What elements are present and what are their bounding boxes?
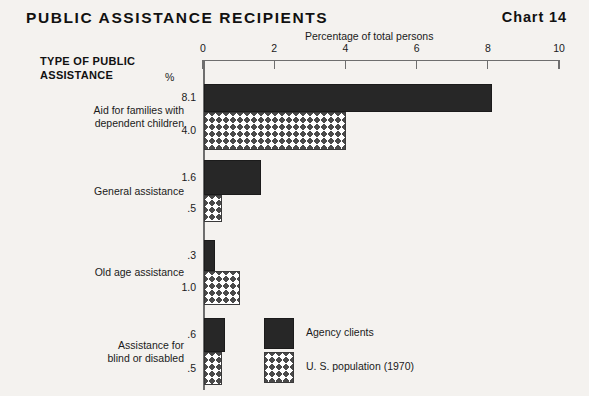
value-label-population-0: 4.0 xyxy=(162,124,196,136)
bar-population-1 xyxy=(204,195,222,222)
value-label-population-3: .5 xyxy=(162,362,196,374)
x-tick-label-10: 10 xyxy=(553,42,565,54)
category-label-1: General assistance xyxy=(24,185,184,198)
value-label-agency-0: 8.1 xyxy=(162,91,196,103)
chart-container: PUBLIC ASSISTANCE RECIPIENTS Chart 14 Pe… xyxy=(0,0,589,396)
x-tick-label-8: 8 xyxy=(485,42,491,54)
category-label-2-line0: Old age assistance xyxy=(24,266,184,279)
value-label-agency-3: .6 xyxy=(162,328,196,340)
category-label-3-line0: Assistance for xyxy=(24,339,184,352)
x-tick-8 xyxy=(487,60,488,69)
plot-area: 0246810 8.14.01.6.5.31.0.6.5 xyxy=(203,60,559,390)
x-tick-label-4: 4 xyxy=(342,42,348,54)
category-label-0-line0: Aid for families with xyxy=(24,104,184,117)
legend-label-0: Agency clients xyxy=(306,326,374,338)
value-label-population-1: .5 xyxy=(162,202,196,214)
legend-label-1: U. S. population (1970) xyxy=(306,360,414,372)
category-label-1-line0: General assistance xyxy=(24,185,184,198)
x-axis-line xyxy=(203,60,559,61)
category-label-2: Old age assistance xyxy=(24,266,184,279)
category-label-0: Aid for families withdependent children xyxy=(24,104,184,130)
x-tick-0 xyxy=(202,60,203,69)
x-tick-2 xyxy=(274,60,275,69)
x-tick-6 xyxy=(416,60,417,69)
x-tick-10 xyxy=(558,60,559,69)
x-tick-label-2: 2 xyxy=(271,42,277,54)
x-tick-4 xyxy=(345,60,346,69)
category-label-0-line1: dependent children xyxy=(24,117,184,130)
value-label-population-2: 1.0 xyxy=(162,281,196,293)
bar-population-2 xyxy=(204,271,240,305)
x-tick-label-0: 0 xyxy=(200,42,206,54)
legend-swatch-agency xyxy=(264,318,294,349)
bar-agency-0 xyxy=(204,84,492,112)
value-label-agency-1: 1.6 xyxy=(162,171,196,183)
value-label-agency-2: .3 xyxy=(162,249,196,261)
bar-agency-3 xyxy=(204,318,225,352)
category-label-3: Assistance forblind or disabled xyxy=(24,339,184,365)
bar-agency-2 xyxy=(204,240,215,271)
bar-population-0 xyxy=(204,112,346,150)
legend-swatch-population xyxy=(264,352,294,383)
chart-number-label: Chart 14 xyxy=(502,9,567,25)
category-label-3-line1: blind or disabled xyxy=(24,352,184,365)
bar-agency-1 xyxy=(204,160,261,195)
x-axis-title: Percentage of total persons xyxy=(305,30,433,42)
category-label-list: Aid for families withdependent childrenG… xyxy=(12,0,184,396)
x-tick-label-6: 6 xyxy=(414,42,420,54)
bar-population-3 xyxy=(204,352,222,385)
